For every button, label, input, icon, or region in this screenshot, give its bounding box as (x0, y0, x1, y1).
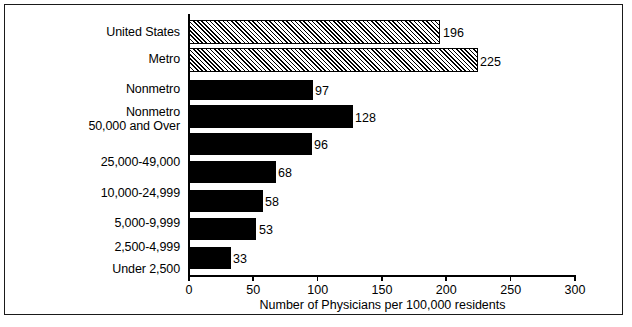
bar-value-label: 196 (443, 27, 464, 39)
x-axis-tick-label: 300 (565, 283, 586, 297)
category-label: Metro (149, 52, 180, 66)
bar-2500-4999 (188, 218, 256, 240)
category-label: 25,000-49,000 (101, 155, 180, 169)
x-axis-tick (188, 276, 190, 281)
bar-10000-24999 (188, 161, 276, 183)
category-label: 2,500-4,999 (114, 240, 180, 254)
bar-value-label: 128 (355, 112, 376, 124)
bar-5000-9999 (188, 190, 263, 212)
bar-value-label: 96 (314, 139, 328, 151)
bar-value-label: 97 (315, 85, 329, 97)
category-label: Under 2,500 (112, 262, 180, 276)
figure: United States Metro Nonmetro Nonmetro 50… (0, 0, 632, 327)
x-axis-tick-label: 150 (372, 283, 393, 297)
bar-value-label: 58 (265, 196, 279, 208)
bar-value-label: 68 (278, 167, 292, 179)
x-axis-tick-label: 100 (307, 283, 328, 297)
category-label: 10,000-24,999 (101, 186, 180, 200)
bar-value-label: 225 (480, 56, 501, 68)
x-axis-tick-label: 50 (246, 283, 260, 297)
bar-value-label: 53 (259, 224, 273, 236)
chart-plot-area: United States Metro Nonmetro Nonmetro 50… (0, 0, 632, 327)
bar-under-2500 (188, 247, 231, 269)
x-axis-tick (445, 276, 447, 281)
category-label: 5,000-9,999 (114, 216, 180, 230)
category-label: Nonmetro 50,000 and Over (88, 105, 180, 133)
x-axis-tick-label: 250 (500, 283, 521, 297)
x-axis-tick (574, 276, 576, 281)
bar-united-states (188, 20, 440, 44)
bar-value-label: 33 (233, 253, 247, 265)
category-label: Nonmetro (126, 82, 180, 96)
x-axis-tick (510, 276, 512, 281)
bar-nonmetro-50000-and-over (188, 105, 353, 128)
x-axis-tick-label: 0 (186, 283, 193, 297)
x-axis-tick (317, 276, 319, 281)
x-axis-tick-label: 200 (436, 283, 457, 297)
y-axis-line (188, 14, 190, 276)
x-axis-tick (381, 276, 383, 281)
x-axis-title: Number of Physicians per 100,000 residen… (189, 298, 576, 312)
bar-nonmetro (188, 80, 313, 100)
category-label: United States (106, 25, 180, 39)
x-axis-tick (252, 276, 254, 281)
bar-25000-49000 (188, 133, 312, 155)
bar-metro (188, 48, 478, 72)
